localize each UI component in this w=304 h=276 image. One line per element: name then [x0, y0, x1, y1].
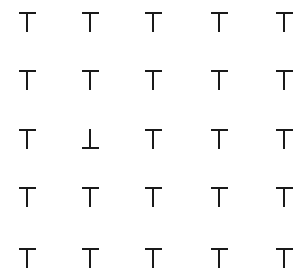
glyph-stem	[152, 129, 154, 149]
t-glyph	[145, 248, 162, 268]
glyph-stem	[26, 70, 28, 90]
glyph-stem	[89, 70, 91, 90]
t-glyph	[19, 12, 36, 32]
glyph-stem	[283, 70, 285, 90]
t-glyph	[276, 248, 293, 268]
glyph-stem	[218, 248, 220, 268]
glyph-stem	[218, 12, 220, 32]
t-glyph	[276, 70, 293, 90]
t-glyph	[211, 187, 228, 207]
glyph-stem	[283, 187, 285, 207]
glyph-stem	[89, 129, 91, 149]
glyph-stem	[283, 129, 285, 149]
glyph-stem	[218, 70, 220, 90]
t-glyph	[145, 12, 162, 32]
t-glyph	[82, 70, 99, 90]
t-glyph	[276, 187, 293, 207]
glyph-stem	[283, 12, 285, 32]
inverted-t-glyph	[82, 129, 99, 149]
t-glyph	[145, 129, 162, 149]
t-glyph	[82, 12, 99, 32]
glyph-grid	[0, 0, 304, 276]
t-glyph	[19, 187, 36, 207]
glyph-stem	[26, 248, 28, 268]
t-glyph	[211, 12, 228, 32]
glyph-stem	[152, 70, 154, 90]
glyph-stem	[89, 187, 91, 207]
t-glyph	[276, 129, 293, 149]
glyph-stem	[89, 248, 91, 268]
glyph-stem	[152, 248, 154, 268]
t-glyph	[82, 248, 99, 268]
glyph-stem	[152, 187, 154, 207]
glyph-stem	[218, 187, 220, 207]
glyph-stem	[26, 187, 28, 207]
t-glyph	[145, 187, 162, 207]
t-glyph	[19, 129, 36, 149]
t-glyph	[211, 70, 228, 90]
t-glyph	[276, 12, 293, 32]
t-glyph	[82, 187, 99, 207]
t-glyph	[145, 70, 162, 90]
glyph-stem	[89, 12, 91, 32]
glyph-stem	[218, 129, 220, 149]
t-glyph	[211, 248, 228, 268]
glyph-stem	[26, 12, 28, 32]
t-glyph	[19, 248, 36, 268]
t-glyph	[211, 129, 228, 149]
glyph-stem	[26, 129, 28, 149]
glyph-stem	[283, 248, 285, 268]
glyph-stem	[152, 12, 154, 32]
t-glyph	[19, 70, 36, 90]
